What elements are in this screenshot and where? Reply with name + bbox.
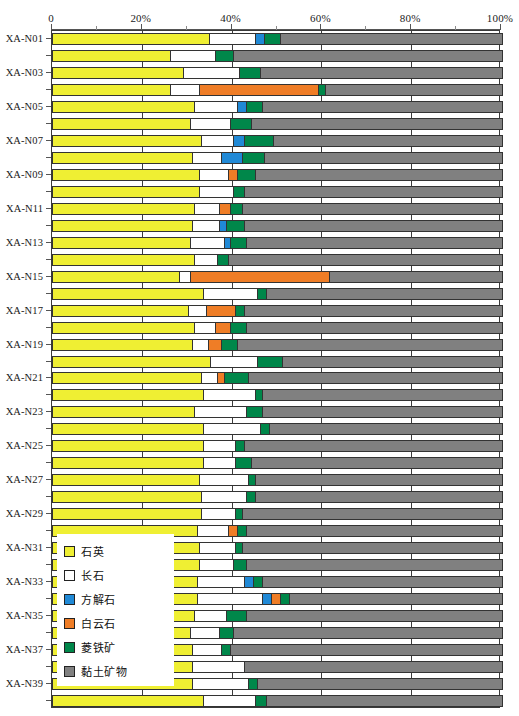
stacked-bar[interactable] [52,84,503,96]
legend-item-白云石[interactable]: 白云石 [64,611,173,635]
legend-label: 黏土矿物 [81,663,127,679]
bar-segment-方解石 [244,577,253,587]
bar-segment-长石 [201,492,246,502]
legend-label: 菱铁矿 [81,639,116,655]
bar-segment-长石 [203,441,234,451]
stacked-bar[interactable] [52,389,503,401]
bar-segment-石英 [53,492,201,502]
stacked-bar[interactable] [52,339,503,351]
bar-segment-石英 [53,696,203,706]
bar-segment-长石 [203,424,259,434]
bar-segment-黏土矿物 [246,323,502,333]
stacked-bar[interactable] [52,457,503,469]
stacked-bar[interactable] [52,356,503,368]
bar-segment-白云石 [228,526,237,536]
stacked-bar[interactable] [52,33,503,45]
bar-segment-黏土矿物 [242,204,502,214]
bar-segment-黏土矿物 [255,475,502,485]
stacked-bar[interactable] [52,305,503,317]
bar-segment-菱铁矿 [221,340,237,350]
stacked-bar[interactable] [52,491,503,503]
stacked-bar[interactable] [52,220,503,232]
bar-segment-白云石 [217,373,224,383]
bar-segment-白云石 [208,340,221,350]
x-axis: 020%40%60%80%100% [0,0,519,30]
stacked-bar[interactable] [52,695,503,707]
bar-segment-石英 [53,204,194,214]
y-axis-label-XA-N21: XA-N21 [6,372,43,383]
bar-segment-方解石 [255,34,264,44]
legend-item-黏土矿物[interactable]: 黏土矿物 [64,659,173,683]
bar-segment-石英 [53,136,201,146]
stacked-bar[interactable] [52,322,503,334]
chart-row [52,472,499,489]
bar-segment-菱铁矿 [217,255,228,265]
chart-row [52,506,499,523]
bar-segment-石英 [53,255,194,265]
bar-segment-石英 [53,289,203,299]
x-axis-tick-label: 60% [310,12,331,24]
stacked-bar[interactable] [52,237,503,249]
stacked-bar[interactable] [52,474,503,486]
bar-segment-石英 [53,170,199,180]
y-axis-label-XA-N11: XA-N11 [6,202,43,213]
stacked-bar[interactable] [52,169,503,181]
bar-segment-方解石 [221,153,241,163]
bar-segment-菱铁矿 [260,424,269,434]
bar-segment-黏土矿物 [233,51,502,61]
legend-item-石英[interactable]: 石英 [64,539,173,563]
bar-segment-菱铁矿 [239,68,259,78]
stacked-bar[interactable] [52,186,503,198]
stacked-bar[interactable] [52,203,503,215]
bar-segment-石英 [53,306,188,316]
stacked-bar[interactable] [52,50,503,62]
bar-segment-黏土矿物 [244,662,502,672]
legend-swatch-icon [64,594,75,605]
bar-segment-长石 [188,306,206,316]
stacked-bar[interactable] [52,288,503,300]
legend-swatch-icon [64,546,75,557]
stacked-bar[interactable] [52,423,503,435]
stacked-bar[interactable] [52,271,503,283]
bar-segment-长石 [199,170,228,180]
bar-segment-菱铁矿 [226,611,246,621]
legend-item-长石[interactable]: 长石 [64,563,173,587]
y-axis-label-XA-N29: XA-N29 [6,508,43,519]
bar-segment-长石 [190,628,219,638]
bar-segment-菱铁矿 [233,560,246,570]
bar-segment-黏土矿物 [289,594,502,604]
legend-item-菱铁矿[interactable]: 菱铁矿 [64,635,173,659]
bar-segment-菱铁矿 [235,306,244,316]
chart-row [52,387,499,404]
bar-segment-菱铁矿 [235,543,242,553]
stacked-bar[interactable] [52,406,503,418]
stacked-bar[interactable] [52,101,503,113]
stacked-bar[interactable] [52,440,503,452]
stacked-bar[interactable] [52,118,503,130]
stacked-bar[interactable] [52,135,503,147]
stacked-bar[interactable] [52,152,503,164]
legend-item-方解石[interactable]: 方解石 [64,587,173,611]
stacked-bar[interactable] [52,254,503,266]
bar-segment-长石 [203,390,255,400]
bar-segment-黏土矿物 [262,390,502,400]
bar-segment-菱铁矿 [255,390,262,400]
bar-segment-菱铁矿 [255,696,266,706]
stacked-bar[interactable] [52,67,503,79]
y-axis-label-XA-N25: XA-N25 [6,440,43,451]
y-axis-label-XA-N01: XA-N01 [6,33,43,44]
bar-segment-黏土矿物 [269,424,502,434]
bar-segment-菱铁矿 [242,153,264,163]
legend-label: 石英 [81,543,104,559]
bar-segment-黏土矿物 [264,153,502,163]
bar-segment-黏土矿物 [325,85,502,95]
bar-segment-菱铁矿 [246,407,262,417]
x-axis-tick-label: 40% [220,12,241,24]
bar-segment-菱铁矿 [233,187,244,197]
stacked-bar[interactable] [52,508,503,520]
bar-segment-菱铁矿 [246,102,262,112]
stacked-bar[interactable] [52,372,503,384]
x-axis-tick-label: 20% [130,12,151,24]
bar-segment-白云石 [219,204,230,214]
chart-row [52,116,499,133]
